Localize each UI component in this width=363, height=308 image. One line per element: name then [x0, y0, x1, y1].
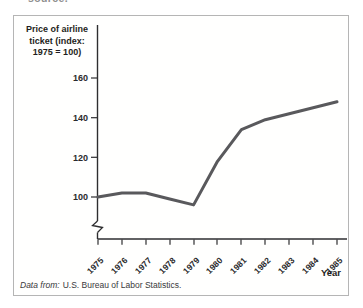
- x-tick-label: 1979: [181, 255, 202, 276]
- y-tick-label: 120: [73, 153, 88, 163]
- y-tick-label: 160: [73, 73, 88, 83]
- x-tick-label: 1978: [157, 255, 178, 276]
- y-tick-label: 100: [73, 192, 88, 202]
- source-note-text: U.S. Bureau of Labor Statistics.: [63, 280, 182, 290]
- source-note: Data from:U.S. Bureau of Labor Statistic…: [20, 280, 181, 290]
- x-axis-label: Year: [321, 267, 341, 278]
- x-tick-label: 1975: [85, 255, 106, 276]
- x-tick-label: 1983: [276, 255, 297, 276]
- page: source. Price of airline ticket (index: …: [0, 0, 363, 308]
- x-tick-label: 1984: [300, 255, 321, 276]
- x-tick-label: 1976: [109, 255, 130, 276]
- x-tick-label: 1977: [133, 255, 154, 276]
- y-axis-break-icon: [93, 221, 103, 233]
- price-line: [98, 102, 337, 205]
- x-tick-label: 1982: [252, 255, 273, 276]
- y-tick-label: 140: [73, 113, 88, 123]
- x-tick-label: 1980: [204, 255, 225, 276]
- x-tick-label: 1981: [228, 255, 249, 276]
- source-note-prefix: Data from:: [20, 280, 60, 290]
- line-chart: 100 120 140 160 1975 1976 1977 1978 1979…: [0, 0, 363, 308]
